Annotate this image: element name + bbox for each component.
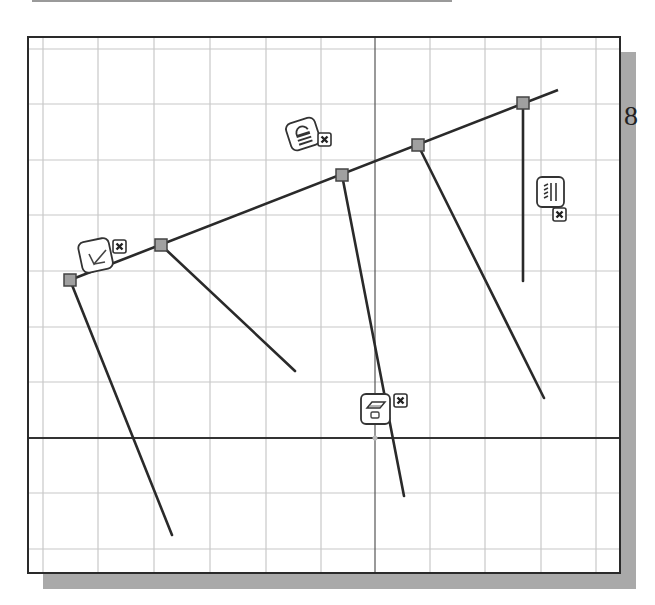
- node-4[interactable]: [412, 139, 424, 151]
- branch-line-1[interactable]: [70, 280, 172, 535]
- horizontal-constraint[interactable]: [361, 394, 390, 424]
- vertical-constraint-close-button[interactable]: [553, 208, 566, 221]
- node-1[interactable]: [64, 274, 76, 286]
- vertical-constraint[interactable]: [537, 177, 564, 207]
- node-3[interactable]: [336, 169, 348, 181]
- perpendicular-icon: [77, 237, 114, 274]
- node-2[interactable]: [155, 239, 167, 251]
- horizontal-fix-icon: [361, 394, 390, 424]
- parallel-constraint[interactable]: [284, 116, 321, 152]
- sketch-svg: [0, 0, 655, 605]
- parallel-lock-icon: [284, 116, 321, 152]
- grid: [29, 38, 619, 572]
- axes: [29, 38, 619, 572]
- node-5[interactable]: [517, 97, 529, 109]
- vertical-icon: [537, 177, 564, 207]
- page-number-fragment: 8: [624, 100, 638, 132]
- horizontal-constraint-close-button[interactable]: [394, 394, 407, 407]
- branch-line-3[interactable]: [342, 175, 404, 496]
- branch-line-2[interactable]: [161, 245, 295, 371]
- parallel-constraint-close-button[interactable]: [318, 133, 331, 146]
- perpendicular-constraint[interactable]: [77, 237, 114, 274]
- origin-point[interactable]: [373, 436, 378, 441]
- perpendicular-constraint-close-button[interactable]: [113, 240, 126, 253]
- constraint-badges[interactable]: [77, 116, 566, 424]
